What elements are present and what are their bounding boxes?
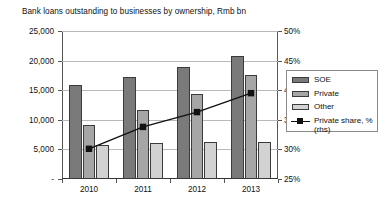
x-axis-tick-label: 2010	[66, 185, 112, 194]
x-axis-tick	[116, 179, 117, 183]
right-axis-tick	[278, 61, 282, 62]
private-share-marker	[140, 124, 146, 130]
line-marker-swatch-icon	[291, 116, 311, 127]
x-axis-tick	[62, 179, 63, 183]
legend-label-soe: SOE	[314, 75, 331, 85]
left-axis-tick-label: 5,000	[4, 145, 54, 154]
private-share-line	[89, 93, 251, 149]
legend-label-private: Private	[314, 89, 339, 99]
left-axis-tick-label: 25,000	[4, 27, 54, 36]
chart-figure: Bank loans outstanding to businesses by …	[0, 0, 385, 216]
bar-swatch-light-icon	[291, 102, 311, 113]
x-axis-tick	[278, 179, 279, 183]
right-axis-tick-label: 25%	[284, 175, 324, 184]
legend-item-other: Other	[291, 102, 374, 115]
left-axis-tick-label: 20,000	[4, 56, 54, 65]
legend-item-private: Private	[291, 89, 374, 102]
private-share-marker	[248, 90, 254, 96]
legend-label-private-share: Private share, % (rhs)	[314, 116, 374, 135]
right-axis-tick	[278, 90, 282, 91]
bar-swatch-medium-icon	[291, 89, 311, 100]
private-share-line-series	[62, 31, 278, 179]
right-axis-tick	[278, 31, 282, 32]
plot-area: -5,00010,00015,00020,00025,000 25%30%35%…	[62, 31, 278, 179]
left-axis-tick-label: -	[4, 175, 54, 184]
legend-label-other: Other	[314, 102, 334, 112]
right-axis-tick-label: 30%	[284, 145, 324, 154]
private-share-marker	[86, 146, 92, 152]
x-axis-tick-label: 2012	[174, 185, 220, 194]
bar-swatch-dark-icon	[291, 75, 311, 86]
left-axis-tick-label: 10,000	[4, 115, 54, 124]
x-axis-tick-label: 2011	[120, 185, 166, 194]
private-share-marker	[194, 109, 200, 115]
right-axis-tick	[278, 120, 282, 121]
x-axis-tick-label: 2013	[228, 185, 274, 194]
x-axis-tick	[170, 179, 171, 183]
right-axis-tick-label: 45%	[284, 56, 324, 65]
left-axis-tick-label: 15,000	[4, 86, 54, 95]
right-axis-tick	[278, 149, 282, 150]
chart-legend: SOE Private Other Private share, % (rhs)	[286, 70, 378, 132]
chart-title: Bank loans outstanding to businesses by …	[22, 7, 246, 16]
legend-item-private-share: Private share, % (rhs)	[291, 116, 374, 136]
x-axis-tick	[224, 179, 225, 183]
legend-item-soe: SOE	[291, 75, 374, 88]
right-axis-tick-label: 50%	[284, 27, 324, 36]
